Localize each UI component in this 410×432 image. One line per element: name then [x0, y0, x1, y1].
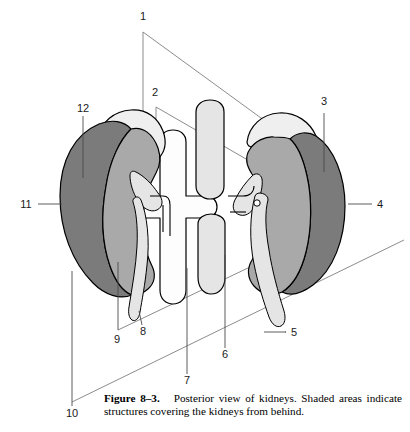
inferior-vena-cava: [196, 100, 224, 199]
label-9: 9: [114, 333, 120, 345]
leader-8: [139, 311, 142, 325]
label-6: 6: [222, 348, 228, 360]
label-4: 4: [377, 198, 383, 210]
label-12: 12: [77, 102, 89, 114]
label-3: 3: [321, 95, 327, 107]
right-hilum-marker: [254, 200, 260, 206]
label-10: 10: [66, 407, 78, 419]
label-5: 5: [291, 326, 297, 338]
figure-caption: Figure 8–3. Posterior view of kidneys. S…: [104, 392, 402, 418]
label-2: 2: [152, 86, 158, 98]
label-1: 1: [140, 10, 146, 22]
kidney-diagram: 1 2 3 4 5 6 7 8 9 10 11 12: [0, 0, 410, 432]
label-7: 7: [184, 374, 190, 386]
label-8: 8: [140, 325, 146, 337]
inferior-vena-cava-lower: [198, 214, 225, 294]
figure-caption-label: Figure 8–3.: [104, 392, 160, 404]
label-11: 11: [20, 198, 31, 210]
figure-root: 1 2 3 4 5 6 7 8 9 10 11 12 Figure 8–3. P…: [0, 0, 410, 432]
